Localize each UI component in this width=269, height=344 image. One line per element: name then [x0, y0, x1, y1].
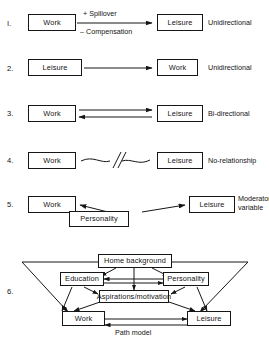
row-3-relationship-label: Bi-directional	[208, 110, 250, 119]
row-5-relationship-label: Moderator variable	[238, 195, 269, 212]
row-number-6: 6.	[7, 288, 13, 296]
path-node-work[interactable]: Work	[62, 311, 105, 326]
row-2-right-box[interactable]: Work	[157, 59, 198, 76]
row-4-relationship-label: No-relationship	[208, 157, 256, 166]
row-number-3: 3.	[7, 110, 13, 118]
path-node-personality[interactable]: Personality	[163, 272, 209, 286]
work-leisure-models-diagram: I. Work + Spillover – Compensation Leisu…	[0, 0, 269, 344]
row-2-relationship-label: Unidirectional	[208, 64, 252, 73]
path-node-education[interactable]: Education	[60, 272, 104, 286]
row-3-right-box[interactable]: Leisure	[157, 105, 203, 122]
row-2-left-box[interactable]: Leisure	[28, 59, 82, 76]
row-3-left-box[interactable]: Work	[28, 105, 76, 122]
row-number-2: 2.	[7, 65, 13, 73]
row-1-right-box[interactable]: Leisure	[157, 14, 203, 31]
row-number-5: 5.	[7, 201, 13, 209]
row-1-left-box[interactable]: Work	[28, 14, 76, 31]
row-5-moderator-box[interactable]: Personality	[69, 211, 129, 227]
row-4-left-box[interactable]: Work	[28, 152, 76, 169]
row-1-label-below: – Compensation	[80, 28, 132, 35]
row-4-right-box[interactable]: Leisure	[157, 152, 203, 169]
row-5-right-box[interactable]: Leisure	[189, 196, 235, 213]
path-node-leisure[interactable]: Leisure	[187, 311, 231, 326]
row-3-arrows	[79, 110, 152, 117]
row-number-1: I.	[7, 20, 11, 28]
path-node-aspirations[interactable]: Aspirations/motivation	[99, 290, 169, 303]
row-1-label-above: + Spillover	[83, 10, 117, 17]
row-number-4: 4.	[7, 157, 13, 165]
row-1-relationship-label: Unidirectional	[208, 19, 252, 28]
path-model-caption: Path model	[115, 329, 151, 336]
path-node-home-background[interactable]: Home background	[98, 254, 172, 268]
row-4-no-relationship-symbol	[81, 152, 150, 168]
